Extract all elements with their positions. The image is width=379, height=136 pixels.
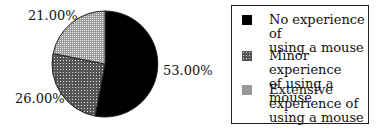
- swatch-light-dots: [242, 85, 252, 95]
- legend-text: Extensive: [269, 83, 379, 97]
- swatch-black: [242, 15, 252, 25]
- legend-text: No experience of: [269, 13, 379, 41]
- legend: No experience ofusing a mouse Minor expe…: [231, 5, 369, 124]
- legend-text: using a mouse: [269, 111, 379, 125]
- label-53: 53.00%: [163, 63, 213, 78]
- label-21: 21.00%: [28, 8, 78, 23]
- legend-text: Minor experience: [269, 49, 379, 77]
- swatch-dark-dots: [242, 51, 252, 61]
- label-26: 26.00%: [15, 91, 65, 106]
- legend-text: experience of: [269, 97, 379, 111]
- pie-chart: 53.00% 26.00% 21.00% No experience ofusi…: [0, 0, 379, 136]
